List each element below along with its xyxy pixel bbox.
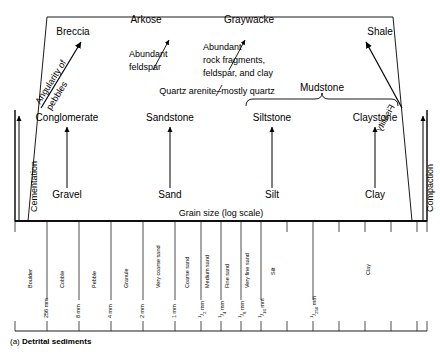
rock-name-claystone: Claystone	[353, 113, 397, 123]
rock-name-siltstone: Siltstone	[253, 113, 291, 123]
sediment-name-sand: Sand	[158, 190, 181, 200]
boundary-256mm: 256 mm	[44, 298, 50, 318]
grain-class-cobble: Cobble	[60, 271, 66, 288]
grain-class-pebble: Pebble	[92, 271, 98, 288]
grain-class-dividers	[47, 222, 313, 300]
grain-class-fine-sand: Fine sand	[225, 264, 231, 288]
boundary-half-mm: 1/2 mm	[198, 301, 207, 318]
quartz-arenite-note: Quartz arenite–mostly quartz	[159, 87, 275, 96]
graywacke-note-line2: rock fragments,	[203, 56, 265, 65]
arkose-label: Arkose	[130, 15, 161, 25]
ruler-ticks-bottom	[15, 321, 427, 331]
sediment-name-silt: Silt	[265, 190, 279, 200]
grain-class-medium-sand: Medium sand	[205, 255, 211, 288]
shale-label: Shale	[367, 27, 393, 37]
grain-class-granule: Granule	[124, 268, 130, 288]
axis-title: Grain size (log scale)	[179, 209, 264, 218]
figure-caption: (a) Detrital sediments	[10, 337, 91, 346]
arkose-note-line1: Abundant	[129, 50, 168, 59]
boundary-2mm: 2 mm	[140, 304, 146, 318]
boundary-sixteenth-mm: 1/16 mm	[258, 298, 267, 318]
boundary-8mm: 8 mm	[76, 304, 82, 318]
grain-class-very-fine-sand: Very fine sand	[245, 253, 251, 288]
grain-class-coarse-sand: Coarse sand	[185, 257, 191, 288]
graywacke-label: Graywacke	[224, 15, 274, 25]
mudstone-label: Mudstone	[300, 83, 344, 93]
rock-name-sandstone: Sandstone	[146, 113, 194, 123]
graywacke-note-line3: feldspar, and clay	[203, 69, 273, 78]
grain-class-silt: Silt	[271, 267, 277, 275]
cementation-label: Cementation	[30, 161, 39, 212]
arkose-note-line2: feldspar	[129, 63, 161, 72]
grain-class-clay: Clay	[366, 264, 372, 275]
grain-class-boulder: Boulder	[28, 269, 34, 288]
boundary-eighth-mm: 1/8 mm	[238, 301, 247, 318]
chart-box	[15, 110, 427, 221]
sediment-name-gravel: Gravel	[52, 190, 81, 200]
boundary-quarter-mm: 1/4 mm	[218, 301, 227, 318]
rock-name-conglomerate: Conglomerate	[36, 113, 99, 123]
boundary-1-256-mm: 1/256 mm	[310, 296, 319, 318]
caption-title: Detrital sediments	[22, 337, 91, 346]
caption-letter: (a)	[10, 337, 20, 346]
sediment-name-clay: Clay	[365, 190, 385, 200]
graywacke-note-line1: Abundant	[203, 43, 242, 52]
compaction-label: Compaction	[426, 164, 435, 212]
boundary-4mm: 4 mm	[108, 304, 114, 318]
grain-class-very-coarse-sand: Very coarse sand	[156, 246, 162, 289]
breccia-label: Breccia	[56, 27, 89, 37]
boundary-1mm: 1 mm	[172, 304, 178, 318]
